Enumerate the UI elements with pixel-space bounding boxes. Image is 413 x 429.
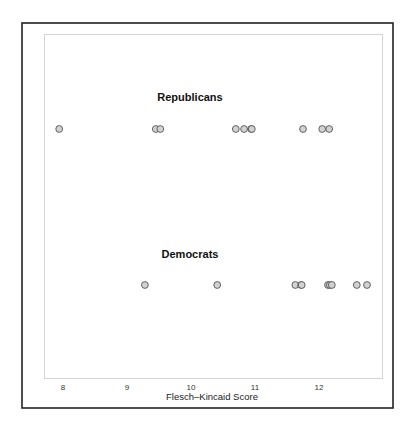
data-point <box>241 126 248 133</box>
x-tick-label: 12 <box>315 383 324 392</box>
data-point <box>232 126 239 133</box>
x-axis-title: Flesch–Kincaid Score <box>166 391 258 402</box>
data-point <box>353 282 360 289</box>
group-label-republicans: Republicans <box>157 91 222 103</box>
data-point <box>319 126 326 133</box>
data-point <box>298 282 305 289</box>
series-republicans <box>56 126 333 133</box>
plot-area <box>45 35 383 379</box>
data-point <box>157 126 164 133</box>
data-point <box>56 126 63 133</box>
series-democrats <box>142 282 371 289</box>
data-point <box>142 282 149 289</box>
group-label-democrats: Democrats <box>162 248 219 260</box>
data-point <box>328 282 335 289</box>
x-tick-label: 8 <box>61 383 66 392</box>
x-tick-label: 9 <box>125 383 130 392</box>
chart: 89101112 Flesch–Kincaid Score Republican… <box>0 0 413 429</box>
data-point <box>300 126 307 133</box>
data-point <box>214 282 221 289</box>
data-point <box>326 126 333 133</box>
data-point <box>248 126 255 133</box>
outer-frame <box>22 23 393 408</box>
data-point <box>364 282 371 289</box>
data-points <box>56 126 371 289</box>
